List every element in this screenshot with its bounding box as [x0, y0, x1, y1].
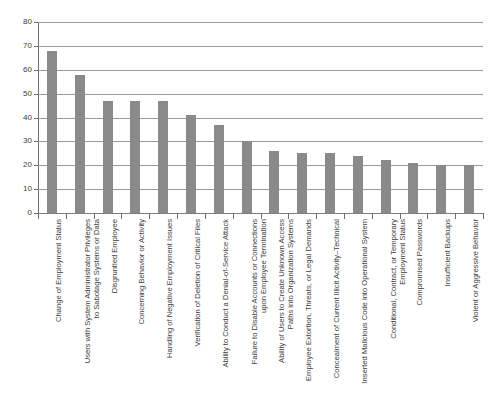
x-axis-category-label-line: Concerning Behavior or Activity [137, 219, 146, 325]
x-axis-category-label: Conditional, Contract, or TemporaryEmplo… [390, 219, 407, 404]
bar [269, 151, 279, 213]
y-axis-tick-mark [34, 22, 38, 23]
bar-chart: 01020304050607080 Change of Employment S… [0, 0, 498, 410]
gridline [38, 46, 483, 47]
gridline [38, 94, 483, 95]
x-axis-category-label: Change of Employment Status [55, 219, 64, 404]
y-axis-tick-label: 30 [2, 137, 32, 145]
y-axis-tick-mark [34, 70, 38, 71]
x-axis-category-label: Ability of Users to Create Unknown Acces… [278, 219, 295, 404]
bar [186, 115, 196, 213]
x-axis-category-label: Handling of Negative Employment Issues [166, 219, 175, 404]
x-axis-category-label-line: Inserted Malicious Code into Operational… [360, 219, 369, 384]
x-axis-category-label-line: Change of Employment Status [54, 219, 63, 322]
y-axis-tick-label: 20 [2, 161, 32, 169]
x-axis-category-label: Ability to Conduct a Denial-of-Service A… [222, 219, 231, 404]
y-axis-tick-mark [34, 213, 38, 214]
y-axis-tick-mark [34, 46, 38, 47]
plot-area [38, 22, 483, 213]
x-axis-category-label-line: Concealment of Current Illicit Activity–… [332, 219, 341, 378]
y-axis-tick-mark [34, 165, 38, 166]
x-axis-category-label-line: Compromised Passwords [415, 219, 424, 306]
x-axis-category-label: Failure to Disable Accounts or Connectio… [251, 219, 268, 404]
x-axis-category-label: Concealment of Current Illicit Activity–… [333, 219, 342, 404]
x-axis-category-label: Users with System Administrator Privileg… [84, 219, 101, 404]
x-axis-category-label-line: to Sabotage Systems or Data [92, 219, 101, 404]
y-axis-tick-label: 60 [2, 66, 32, 74]
x-axis-category-label-line: Conditional, Contract, or Temporary [389, 219, 398, 339]
gridline [38, 22, 483, 23]
x-axis-category-label-line: Disgruntled Employee [110, 219, 119, 293]
bar [325, 153, 335, 213]
x-axis-category-label: Disgruntled Employee [111, 219, 120, 404]
bar [130, 101, 140, 213]
x-axis-labels: Change of Employment StatusUsers with Sy… [0, 219, 498, 410]
x-axis-category-label: Employee Extortion, Threats, or Legal De… [305, 219, 314, 404]
bar [75, 75, 85, 213]
y-axis-tick-mark [34, 94, 38, 95]
y-axis-tick-label: 70 [2, 42, 32, 50]
bar [436, 165, 446, 213]
x-axis-category-label-line: Failure to Disable Accounts or Connectio… [250, 219, 259, 364]
y-axis-tick-label: 40 [2, 114, 32, 122]
bar [464, 165, 474, 213]
bar [408, 163, 418, 213]
x-axis-category-label: Insufficient Backups [444, 219, 453, 404]
bar [353, 156, 363, 213]
x-axis-category-label-line: Employee Extortion, Threats, or Legal De… [304, 219, 313, 381]
y-axis-tick-mark [34, 118, 38, 119]
x-axis-category-label-line: Handling of Negative Employment Issues [165, 219, 174, 358]
bar [242, 141, 252, 213]
y-axis-tick-label: 50 [2, 90, 32, 98]
x-axis-category-label: Compromised Passwords [416, 219, 425, 404]
x-axis-category-label: Verification of Deletion of Critical Fil… [194, 219, 203, 404]
x-axis-category-label-line: Insufficient Backups [443, 219, 452, 286]
bar [381, 160, 391, 213]
bar [103, 101, 113, 213]
gridline [38, 70, 483, 71]
bar [47, 51, 57, 213]
x-axis-category-label: Violent or Aggressive Behavior [472, 219, 481, 404]
x-axis-category-label-line: Paths into Organization Systems [287, 219, 296, 404]
y-axis-tick-mark [34, 189, 38, 190]
x-axis-category-label-line: Violent or Aggressive Behavior [471, 219, 480, 322]
x-axis-category-label: Inserted Malicious Code into Operational… [361, 219, 370, 404]
bar [297, 153, 307, 213]
x-axis-category-label-line: Employment Status [398, 219, 407, 404]
y-axis-tick-mark [34, 141, 38, 142]
x-axis-category-label-line: Users with System Administrator Privileg… [83, 219, 92, 363]
bar [158, 101, 168, 213]
x-axis-category-label-line: Verification of Deletion of Critical Fil… [193, 219, 202, 346]
bar [214, 125, 224, 213]
y-axis-tick-label: 80 [2, 18, 32, 26]
x-axis-category-label: Concerning Behavior or Activity [138, 219, 147, 404]
y-axis-tick-label: 10 [2, 185, 32, 193]
x-axis-category-label-line: upon Employee Termination [259, 219, 268, 404]
x-axis-category-label-line: Ability to Conduct a Denial-of-Service A… [221, 219, 230, 368]
